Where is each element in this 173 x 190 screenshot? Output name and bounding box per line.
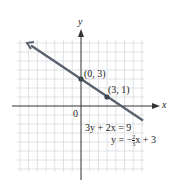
y-axis-label: y <box>78 17 82 27</box>
equation-slope-intercept: y = −23x + 3 <box>111 134 156 147</box>
coordinate-plane <box>0 0 173 190</box>
x-axis-label: x <box>162 100 166 110</box>
point-label-3-1: (3, 1) <box>108 85 130 95</box>
point-0-3 <box>78 76 83 81</box>
equation-prefix: y = − <box>111 134 132 145</box>
point-label-0-3: (0, 3) <box>84 69 106 79</box>
equation-standard-form: 3y + 2x = 9 <box>85 123 131 133</box>
point-3-1 <box>104 94 109 99</box>
origin-label: 0 <box>73 109 78 119</box>
equation-suffix: x + 3 <box>135 134 156 145</box>
x-axis <box>12 103 160 109</box>
graph-line <box>27 42 143 121</box>
